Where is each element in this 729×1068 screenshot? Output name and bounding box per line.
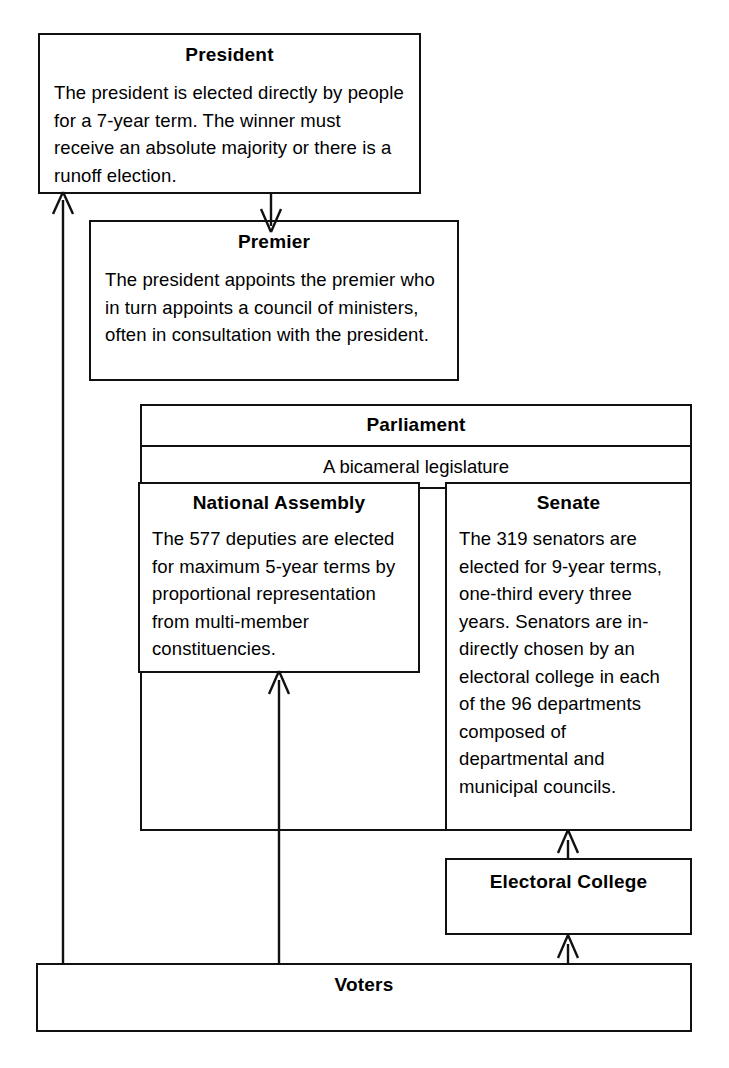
premier-title: Premier <box>105 231 443 253</box>
parliament-title: Parliament <box>142 414 690 436</box>
premier-description: The president appoints the premier who i… <box>105 266 443 349</box>
electoral-college-title: Electoral College <box>457 871 680 893</box>
edge-electoral-college-to-senate <box>558 830 578 858</box>
senate-node[interactable]: Senate The 319 senators are elected for … <box>445 482 692 831</box>
president-description: The president is elected directly by peo… <box>54 79 405 189</box>
president-title: President <box>54 44 405 66</box>
national-assembly-description: The 577 deputies are elected for maximum… <box>152 525 406 663</box>
edge-voters-to-electoral-college <box>558 935 578 963</box>
premier-node[interactable]: Premier The president appoints the premi… <box>89 220 459 381</box>
voters-title: Voters <box>48 974 680 996</box>
edge-voters-to-president <box>53 192 73 963</box>
parliament-subtitle: A bicameral legislature <box>323 456 509 478</box>
voters-node[interactable]: Voters <box>36 963 692 1032</box>
electoral-college-node[interactable]: Electoral College <box>445 858 692 935</box>
national-assembly-title: National Assembly <box>152 492 406 514</box>
president-node[interactable]: President The president is elected direc… <box>38 33 421 194</box>
government-structure-diagram: President The president is elected direc… <box>0 0 729 1068</box>
national-assembly-node[interactable]: National Assembly The 577 deputies are e… <box>138 482 420 673</box>
senate-description: The 319 senators are elected for 9-year … <box>459 525 678 800</box>
senate-title: Senate <box>459 492 678 514</box>
